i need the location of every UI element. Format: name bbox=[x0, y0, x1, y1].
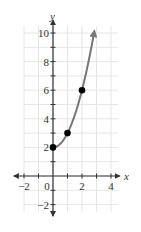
data-point bbox=[64, 130, 71, 137]
x-axis-label: x bbox=[123, 170, 129, 182]
y-tick-label: −2 bbox=[37, 199, 49, 211]
y-tick-label: 8 bbox=[44, 56, 50, 68]
y-tick-label: 6 bbox=[44, 84, 50, 96]
y-tick-label: 2 bbox=[44, 141, 50, 153]
y-axis-label: y bbox=[49, 10, 55, 22]
x-tick-label: 0 bbox=[44, 180, 50, 192]
data-point bbox=[50, 144, 57, 151]
x-tick-label: 4 bbox=[108, 180, 114, 192]
y-tick-label: 10 bbox=[38, 27, 50, 39]
x-tick-label: 2 bbox=[79, 180, 85, 192]
function-graph: −2024−2246810 x y bbox=[0, 0, 141, 232]
data-point bbox=[79, 87, 86, 94]
y-tick-label: 4 bbox=[44, 113, 50, 125]
grid bbox=[24, 26, 118, 212]
function-curve bbox=[53, 31, 94, 147]
x-tick-label: −2 bbox=[18, 180, 30, 192]
